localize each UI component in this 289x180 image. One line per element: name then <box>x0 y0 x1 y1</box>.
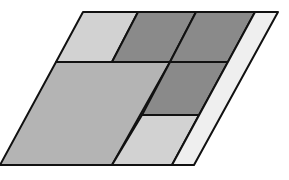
parallelogram-diagram <box>0 0 289 180</box>
